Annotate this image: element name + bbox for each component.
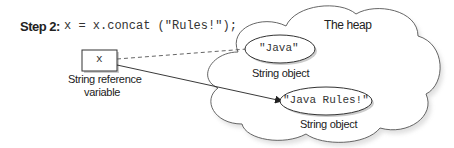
reference-caption-line1: String reference [68, 73, 141, 85]
heap-object-java-rules-caption: String object [300, 118, 357, 130]
heap-object-java-caption: String object [252, 67, 309, 79]
step-label: Step 2: [20, 19, 60, 34]
step-code: x = x.concat ("Rules!"); [64, 19, 237, 33]
string-concat-diagram: Step 2: x = x.concat ("Rules!"); x Strin… [0, 0, 454, 148]
reference-var-name: x [96, 53, 103, 65]
heap-object-java-rules-value: "Java Rules!" [283, 94, 369, 106]
heap-object-java-value: "Java" [259, 42, 299, 54]
reference-caption-line2: variable [84, 86, 120, 98]
heap-title: The heap [324, 18, 372, 32]
